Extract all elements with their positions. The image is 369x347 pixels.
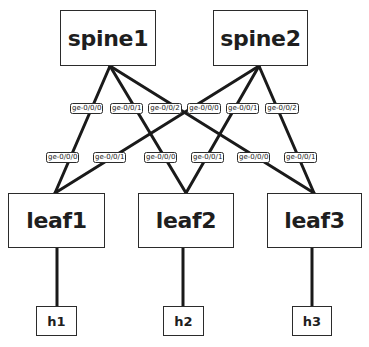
link-spine1-leaf1 [55,66,110,193]
node-label: spine1 [68,26,148,51]
link-spine1-leaf3 [110,66,314,193]
node-spine2[interactable]: spine2 [213,10,308,66]
port-label-leaf1-ge-0-0-1: ge-0/0/1 [93,152,126,163]
node-label: h3 [303,314,321,329]
port-label-spine1-ge-0-0-2: ge-0/0/2 [148,103,182,114]
port-label-leaf3-ge-0-0-0: ge-0/0/0 [237,152,270,163]
node-label: leaf2 [156,208,217,233]
node-leaf1[interactable]: leaf1 [8,193,105,248]
port-label-spine2-ge-0-0-2: ge-0/0/2 [265,103,299,114]
node-label: h2 [174,314,192,329]
node-h2[interactable]: h2 [163,306,204,336]
links-layer [0,0,369,347]
link-spine2-leaf3 [259,66,314,193]
network-topology-diagram: spine1 spine2 leaf1 leaf2 leaf3 h1 h2 h3… [0,0,369,347]
port-label-leaf2-ge-0-0-0: ge-0/0/0 [144,152,177,163]
port-label-leaf3-ge-0-0-1: ge-0/0/1 [284,152,317,163]
port-label-leaf2-ge-0-0-1: ge-0/0/1 [191,152,224,163]
node-label: leaf1 [26,208,87,233]
node-leaf3[interactable]: leaf3 [267,193,362,248]
node-h1[interactable]: h1 [36,306,77,336]
link-spine2-leaf2 [186,66,259,193]
node-spine1[interactable]: spine1 [60,10,156,66]
port-label-leaf1-ge-0-0-0: ge-0/0/0 [46,152,79,163]
node-h3[interactable]: h3 [292,306,332,336]
port-label-spine2-ge-0-0-1: ge-0/0/1 [226,103,259,114]
port-label-spine1-ge-0-0-0: ge-0/0/0 [70,103,103,114]
link-spine2-leaf1 [55,66,259,193]
node-leaf2[interactable]: leaf2 [138,193,234,248]
port-label-spine1-ge-0-0-1: ge-0/0/1 [110,103,143,114]
node-label: h1 [47,314,65,329]
node-label: spine2 [220,26,300,51]
port-label-spine2-ge-0-0-0: ge-0/0/0 [187,103,221,114]
node-label: leaf3 [284,208,345,233]
link-spine1-leaf2 [110,66,186,193]
